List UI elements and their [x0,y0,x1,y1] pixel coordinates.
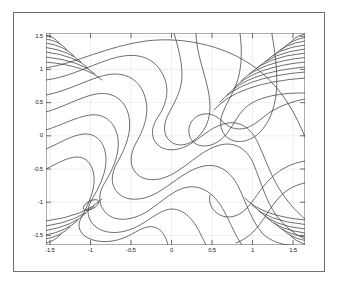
x-axis-tick-labels: -1.5 -1 -0.5 0 0.5 1 1.5 [46,247,305,259]
x-tick-label: -1 [75,247,107,254]
y-tick-label: 1 [40,66,43,72]
x-tick-label: 1 [237,247,269,254]
x-tick-label: 1.5 [277,247,309,254]
y-tick-label: 0 [40,132,43,138]
x-tick-label: 0 [156,247,188,254]
contour-plot-area [46,33,305,245]
x-tick-label: 0.5 [196,247,228,254]
y-tick-label: -0.5 [33,166,43,172]
y-tick-label: 0.5 [35,99,43,105]
x-tick-label: -1.5 [34,247,66,254]
y-tick-label: -1.5 [33,232,43,238]
y-axis-tick-labels: 1.5 1 0.5 0 -0.5 -1 -1.5 [18,33,43,245]
x-tick-label: -0.5 [115,247,147,254]
y-tick-label: -1 [38,199,43,205]
y-tick-label: 1.5 [35,33,43,39]
contour-plot-svg [46,33,305,245]
figure-canvas: 1.5 1 0.5 0 -0.5 -1 -1.5 -1.5 -1 -0.5 0 … [0,0,339,288]
